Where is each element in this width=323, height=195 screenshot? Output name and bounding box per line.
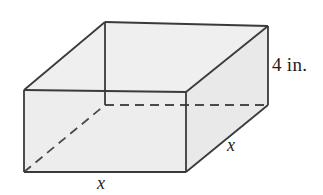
depth-dimension-label: x xyxy=(227,136,235,154)
prism-figure: 4 in. x x xyxy=(0,0,323,195)
width-dimension-label: x xyxy=(97,174,105,192)
height-dimension-label: 4 in. xyxy=(272,55,307,74)
prism-drawing xyxy=(0,0,323,195)
